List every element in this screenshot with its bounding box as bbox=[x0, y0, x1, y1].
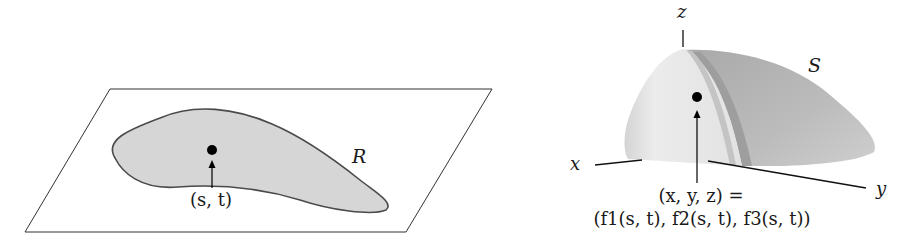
point-xyz-dot bbox=[692, 92, 702, 102]
point-st-label: (s, t) bbox=[190, 191, 232, 209]
point-xyz-label-line1: (x, y, z) = bbox=[646, 187, 756, 205]
x-axis bbox=[595, 160, 642, 165]
point-xyz-label-line2: (f1(s, t), f2(s, t), f3(s, t)) bbox=[567, 210, 837, 228]
z-axis-label: z bbox=[677, 3, 686, 21]
y-axis-label: y bbox=[876, 180, 886, 198]
surface-label: S bbox=[808, 56, 821, 75]
region-label: R bbox=[352, 147, 366, 166]
point-st-dot bbox=[207, 145, 217, 155]
x-axis-label: x bbox=[570, 155, 580, 173]
surface-s bbox=[625, 49, 876, 166]
